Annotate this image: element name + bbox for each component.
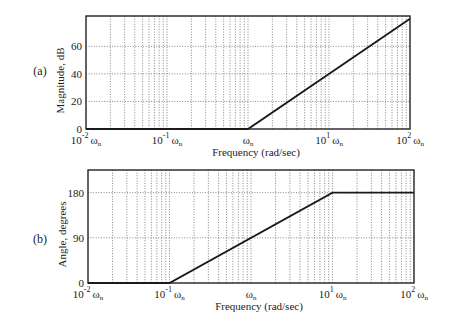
panel-label: (b) (33, 232, 47, 246)
y-tick-label: 90 (73, 232, 85, 244)
x-tick-label: 102ωn (396, 131, 424, 148)
x-tick-label: 10-2ωn (73, 285, 104, 302)
chart-panel-b: 09018010-2ωn10-1ωnωn101ωn102ωnFrequency … (33, 170, 428, 313)
plot-frame (88, 170, 414, 283)
y-tick-label: 40 (71, 68, 83, 80)
x-tick-label: 10-1ωn (154, 285, 185, 302)
x-tick-label: 10-1ωn (152, 131, 183, 148)
y-tick-label: 60 (71, 40, 83, 52)
y-axis-label: Magnitude, dB (54, 48, 66, 114)
grid (88, 170, 414, 283)
y-tick-label: 180 (68, 187, 85, 199)
x-axis-label: Frequency (rad/sec) (212, 146, 300, 159)
y-axis-label: Angle, degrees (56, 202, 68, 268)
x-tick-label: 101ωn (315, 131, 343, 148)
grid (86, 16, 410, 129)
bode-plots: 020406010-2ωn10-1ωnωn101ωn102ωnFrequency… (0, 0, 449, 326)
y-tick-label: 20 (71, 95, 83, 107)
chart-panel-a: 020406010-2ωn10-1ωnωn101ωn102ωnFrequency… (33, 16, 424, 159)
panel-label: (a) (33, 64, 46, 78)
x-tick-label: 10-2ωn (71, 131, 102, 148)
x-axis-label: Frequency (rad/sec) (215, 300, 303, 313)
x-tick-label: 102ωn (400, 285, 428, 302)
x-tick-label: 101ωn (319, 285, 347, 302)
plot-frame (86, 16, 410, 129)
